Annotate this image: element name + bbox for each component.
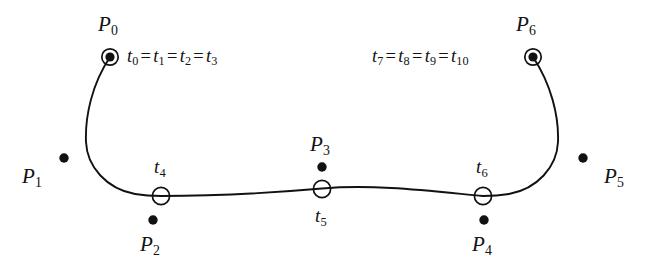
control-point-dot-P1 bbox=[59, 153, 68, 162]
control-point-dot-P4 bbox=[479, 215, 488, 224]
control-point-dot-P3 bbox=[317, 162, 326, 171]
knot-equation-end: t7=t8=t9=t10 bbox=[372, 47, 468, 66]
bspline-figure: P0P1P2P3P4P5P6t4t5t6 t0=t1=t2=t3 t7=t8=t… bbox=[0, 0, 652, 271]
knot-equation-start: t0=t1=t2=t3 bbox=[127, 47, 217, 66]
label-P0: P0 bbox=[98, 14, 118, 35]
control-point-dot-P2 bbox=[148, 215, 157, 224]
label-P4: P4 bbox=[472, 234, 492, 255]
control-point-dot-P6 bbox=[528, 52, 537, 61]
label-P2: P2 bbox=[140, 234, 160, 255]
label-P5: P5 bbox=[604, 166, 624, 187]
control-point-dot-P0 bbox=[105, 52, 114, 61]
label-P6: P6 bbox=[516, 14, 536, 35]
label-P1: P1 bbox=[22, 166, 42, 187]
label-P3: P3 bbox=[310, 134, 330, 155]
label-t5: t5 bbox=[315, 206, 327, 225]
label-t4: t4 bbox=[154, 157, 166, 176]
label-t6: t6 bbox=[476, 157, 488, 176]
control-point-dot-P5 bbox=[578, 153, 587, 162]
